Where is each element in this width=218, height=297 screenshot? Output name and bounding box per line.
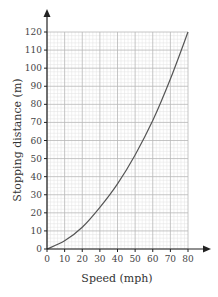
x-tick-label: 50 (129, 254, 141, 264)
y-tick-label: 120 (25, 27, 42, 37)
y-tick-label: 40 (31, 172, 43, 182)
y-tick-label: 50 (31, 154, 43, 164)
y-tick-label: 10 (31, 226, 43, 236)
x-axis-label: Speed (mph) (81, 272, 152, 285)
x-tick-label: 80 (182, 254, 194, 264)
y-ticks: 0102030405060708090100110120 (25, 27, 47, 254)
y-tick-label: 0 (36, 244, 42, 254)
y-tick-label: 80 (31, 99, 43, 109)
y-tick-label: 60 (31, 136, 43, 146)
x-tick-label: 40 (112, 254, 124, 264)
x-ticks: 01020304050607080 (44, 249, 194, 264)
y-tick-label: 90 (31, 81, 43, 91)
y-axis-arrow-icon (44, 9, 51, 17)
x-tick-label: 10 (59, 254, 71, 264)
y-tick-label: 20 (31, 208, 43, 218)
x-tick-label: 20 (77, 254, 89, 264)
x-axis-arrow-icon (203, 246, 211, 253)
y-axis-label: Stopping distance (m) (11, 78, 24, 201)
y-tick-label: 100 (25, 63, 42, 73)
y-tick-label: 110 (25, 45, 42, 55)
y-tick-label: 30 (31, 190, 43, 200)
x-tick-label: 0 (44, 254, 50, 264)
x-tick-label: 70 (165, 254, 177, 264)
axes (44, 9, 212, 253)
x-tick-label: 60 (147, 254, 159, 264)
y-tick-label: 70 (31, 117, 43, 127)
x-tick-label: 30 (94, 254, 106, 264)
stopping-distance-chart: 01020304050607080 0102030405060708090100… (0, 0, 218, 297)
